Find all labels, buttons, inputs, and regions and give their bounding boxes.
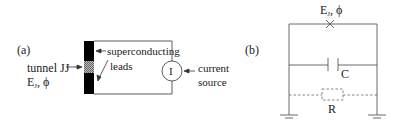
loop-wire-bottom — [94, 81, 172, 94]
current-source-label-line1: current — [198, 62, 229, 74]
superconducting-label: superconducting — [107, 45, 180, 57]
superconducting-lead-top — [84, 41, 94, 61]
phi-text: , ϕ — [330, 3, 342, 17]
ground-icon-left — [280, 115, 298, 118]
leads-label: leads — [110, 60, 133, 72]
resistor-icon — [322, 89, 343, 100]
superconducting-lead-bottom — [84, 73, 94, 94]
tunnel-junction-barrier — [84, 61, 94, 73]
capacitor-icon — [328, 58, 338, 71]
ground-icon-right — [368, 115, 386, 118]
current-source-label-line2: source — [198, 76, 227, 88]
panel-a-label: (a) — [17, 44, 30, 56]
resistor-label: R — [328, 103, 336, 115]
panel-b-label: (b) — [245, 44, 259, 56]
ej-phi-label-a: EJ, ϕ — [27, 76, 49, 92]
current-source-symbol: I — [169, 65, 173, 77]
ej-phi-label-b: EJ, ϕ — [320, 4, 342, 20]
capacitor-label: C — [341, 68, 349, 80]
tunnel-jj-label: tunnel JJ — [27, 62, 69, 74]
phi-text: , ϕ — [37, 75, 49, 89]
